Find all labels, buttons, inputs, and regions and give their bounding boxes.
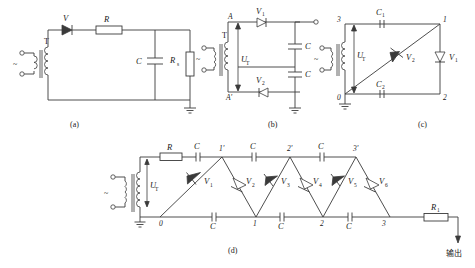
cap-top-3-label-d: C [318,141,324,151]
diode-v1-c [435,52,445,62]
capacitor-c2-label-b: C [305,69,311,79]
transformer-label-b: T [222,31,227,40]
diode-v1-sub-d: 1 [210,182,213,188]
diode-v2-d [233,178,246,189]
figure-container: ~ T V R C R s [0,0,475,268]
ac-symbol-d: ~ [104,189,109,198]
node-1-label-d: 1 [253,219,257,228]
terminal-d-top [111,175,115,179]
caption-b: (b) [268,120,278,129]
capacitor-c1-sub-c: 1 [382,12,385,18]
terminal-c-top [320,46,324,50]
circuit-b: ~ T A A' U T V 1 V 2 C [196,6,318,129]
node-0-label-c: 0 [337,93,341,102]
circuit-a: ~ T V R C R s [13,13,196,129]
resistor-label-d: R [166,142,173,152]
node-a-prime-label-b: A' [225,93,233,102]
cap-bot-1-label-d: C [210,221,216,231]
terminal-b-top [202,46,206,50]
cap-top-1-label-d: C [194,141,200,151]
diode-v2-c [390,52,400,63]
output-resistor-sub-d: 1 [437,207,440,213]
node-1p-label-d: 1' [219,144,225,153]
capacitor-label-a: C [136,56,142,66]
capacitor-c1-label-b: C [305,41,311,51]
cap-top-2-label-d: C [250,141,256,151]
diode-v6-d [366,178,379,189]
caption-a: (a) [70,120,79,129]
resistor-r-a [96,26,122,34]
diode-v-a [62,25,72,35]
load-resistor-a [186,52,194,76]
diode-v2-sub-d: 2 [252,182,255,188]
node-2p-label-d: 2' [287,144,293,153]
node-2-label-c: 2 [443,93,447,102]
ut-sub-d: T [155,186,159,192]
output-text-d: 输出 [446,248,462,258]
diode-v2-sub-c: 2 [412,57,415,63]
node-3-label-d: 3 [381,219,386,228]
ut-arrow-up-c [352,25,357,31]
diode-v3-sub-d: 3 [287,182,290,188]
resistor-label-a: R [103,14,110,24]
diode-v2-b [259,88,268,97]
node-3-label-c: 3 [336,15,341,24]
ut-arrow-down-d [145,202,149,208]
ut-arrow-up-d [145,159,149,165]
circuit-d: ~ R U T 0 C 1' C [104,141,462,258]
capacitor-c2-sub-c: 2 [382,84,385,90]
ac-symbol-c: ~ [314,55,319,64]
diode-v4-d [300,178,313,189]
resistor-r-d [160,153,182,161]
diode-v5-sub-d: 5 [354,182,357,188]
diode-label-a: V [63,13,70,23]
ut-arrow-up-b [236,23,241,29]
diode-v1-sub-c: 1 [455,57,458,63]
node-1-label-c: 1 [443,15,447,24]
node-0-label-d: 0 [159,219,163,228]
terminal-a-bottom [20,72,24,76]
diode-v6-sub-d: 6 [385,182,388,188]
output-resistor-label-d: R [430,202,437,212]
caption-d: (d) [228,246,238,255]
cap-bot-2-label-d: C [278,221,284,231]
caption-c: (c) [418,120,427,129]
load-resistor-sub-a: s [177,61,179,67]
ut-sub-b: T [246,60,250,66]
circuit-c: ~ 3 0 U T C 1 C 2 1 2 V 1 [314,7,458,129]
diode-v4-sub-d: 4 [319,182,322,188]
ac-symbol-b: ~ [196,55,201,64]
terminal-c-bottom [320,68,324,72]
terminal-a-top [20,51,24,55]
load-resistor-label-a: R [169,55,176,65]
diode-v2-sub-b: 2 [262,80,265,86]
diode-v1-b [257,18,266,27]
terminal-b-bottom [202,68,206,72]
output-terminal-b [314,20,318,24]
ut-sub-c: T [362,56,366,62]
diode-v1-sub-b: 1 [262,11,265,17]
terminal-d-bottom [111,205,115,209]
node-3p-label-d: 3' [352,144,359,153]
node-a-label-b: A [227,12,233,21]
cap-bot-3-label-d: C [346,221,352,231]
ac-symbol-a: ~ [13,60,18,69]
output-arrow-d [456,236,461,243]
output-resistor-d [424,214,448,222]
ut-arrow-down-b [236,85,241,91]
circuit-diagram-svg: ~ T V R C R s [0,0,475,268]
node-2-label-d: 2 [320,219,324,228]
